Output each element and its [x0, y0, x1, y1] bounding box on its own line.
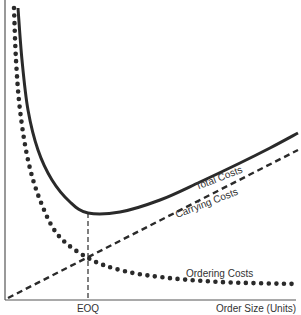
ordering-costs-label: Ordering Costs — [186, 268, 253, 279]
eoq-chart: Total Costs Carrying Costs Ordering Cost… — [0, 0, 301, 315]
total-costs-curve — [18, 8, 298, 214]
ordering-costs-curve — [14, 8, 298, 284]
eoq-tick-label: EOQ — [77, 303, 99, 314]
x-axis-label: Order Size (Units) — [216, 303, 296, 314]
total-costs-label: Total Costs — [194, 164, 244, 192]
